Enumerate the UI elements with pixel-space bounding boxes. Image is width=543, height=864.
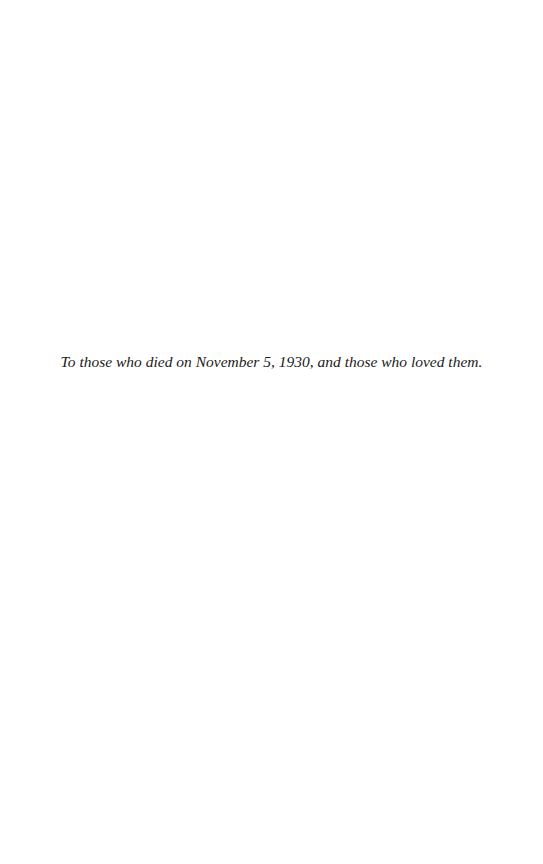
book-page: To those who died on November 5, 1930, a…	[0, 0, 543, 864]
dedication-text: To those who died on November 5, 1930, a…	[0, 352, 543, 372]
